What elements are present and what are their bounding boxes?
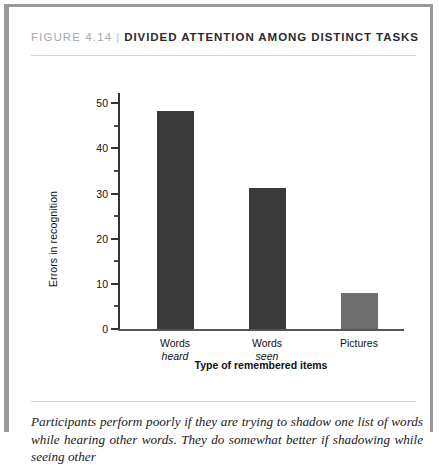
header-divider	[31, 55, 416, 56]
figure-caption: Participants perform poorly if they are …	[31, 413, 423, 466]
y-tick-0	[111, 328, 118, 330]
category-line-1: Words	[160, 337, 190, 349]
y-tick-label-0: 0	[102, 323, 108, 335]
figure-number-label: FIGURE 4.14	[31, 31, 112, 43]
bar-chart: Errors in recognition 0 10 20 30 40 50	[9, 63, 438, 383]
x-axis-line	[118, 329, 404, 331]
figure-frame: FIGURE 4.14|DIVIDED ATTENTION AMONG DIST…	[4, 4, 433, 432]
category-line-1: Words	[252, 337, 282, 349]
y-tick-20	[111, 238, 118, 240]
y-tick-30	[111, 193, 118, 195]
x-axis-title: Type of remembered items	[118, 359, 404, 371]
y-tick-label-50: 50	[96, 97, 108, 109]
bar-words-seen	[249, 188, 286, 329]
bar-series	[118, 93, 404, 329]
bar-words-heard	[157, 111, 194, 329]
y-tick-label-10: 10	[96, 278, 108, 290]
figure-header-separator: |	[112, 31, 124, 43]
figure-title: DIVIDED ATTENTION AMONG DISTINCT TASKS	[124, 31, 419, 43]
caption-line-2: hearing other words. They do somewhat be…	[31, 432, 423, 465]
plot-area: 0 10 20 30 40 50 Words h	[118, 93, 404, 329]
caption-divider	[31, 401, 416, 402]
y-tick-40	[111, 147, 118, 149]
y-tick-50	[111, 102, 118, 104]
y-tick-label-30: 30	[96, 188, 108, 200]
y-axis-title: Errors in recognition	[47, 159, 59, 319]
figure-header: FIGURE 4.14|DIVIDED ATTENTION AMONG DIST…	[31, 27, 414, 47]
y-tick-10	[111, 283, 118, 285]
y-tick-label-20: 20	[96, 233, 108, 245]
bar-pictures	[341, 293, 378, 329]
category-line-1: Pictures	[340, 337, 378, 349]
y-tick-label-40: 40	[96, 142, 108, 154]
x-category-label-pictures: Pictures	[314, 337, 404, 350]
